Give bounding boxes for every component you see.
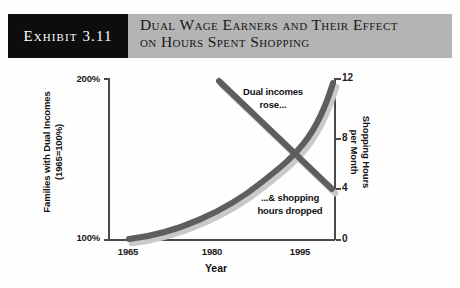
annotation-rise-line-1: Dual incomes — [243, 86, 303, 97]
annotation-rise-line-2: rose... — [260, 99, 287, 110]
exhibit-tag-box: Exhibit 3.11 — [8, 14, 128, 58]
annotation-drop-line-2: hours dropped — [257, 205, 322, 216]
annotation-dual-incomes-rose: Dual incomes rose... — [228, 86, 318, 111]
exhibit-tag-label: Exhibit 3.11 — [8, 14, 128, 58]
annotation-drop-line-1: ...& shopping — [261, 192, 319, 203]
exhibit-title-line-2: on Hours Spent Shopping — [140, 33, 446, 50]
annotation-shopping-hours-dropped: ...& shopping hours dropped — [240, 192, 340, 217]
exhibit-title-line-1: Dual Wage Earners and Their Effect — [140, 16, 446, 33]
chart-plot-area: 200% 100% 12 8 4 0 1965 1980 1995 Year F… — [0, 62, 460, 288]
exhibit-title: Dual Wage Earners and Their Effect on Ho… — [140, 16, 446, 50]
exhibit-figure: Exhibit 3.11 Dual Wage Earners and Their… — [0, 0, 460, 288]
